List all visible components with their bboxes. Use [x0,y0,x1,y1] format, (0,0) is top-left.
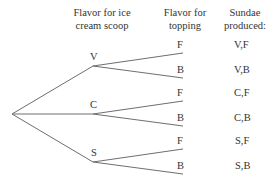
result-v-f: V,F [234,39,249,51]
result-v-b: V,B [234,64,250,76]
topping-v-b: B [177,64,184,76]
node-s: S [91,147,97,159]
branch-s-b [93,162,183,174]
node-c: C [90,99,97,111]
result-s-b: S,B [235,160,250,172]
branch-c-f [93,101,183,114]
topping-s-f: F [177,135,183,147]
branch-root-v [12,66,93,114]
branch-c-b [93,114,183,126]
branch-s-f [93,149,183,162]
topping-c-b: B [177,112,184,124]
topping-c-f: F [177,87,183,99]
topping-v-f: F [177,39,183,51]
result-s-f: S,F [235,135,249,147]
result-c-b: C,B [234,112,251,124]
topping-s-b: B [177,160,184,172]
node-v: V [90,51,98,63]
result-c-f: C,F [234,87,249,99]
branch-root-s [12,114,93,162]
branch-v-b [93,66,183,78]
branch-v-f [93,53,183,66]
